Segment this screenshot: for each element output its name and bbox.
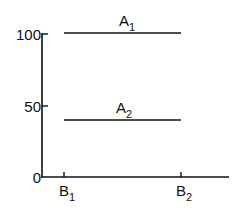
series-a2-label: A2 — [116, 99, 132, 120]
x-label-b1: B1 — [59, 182, 75, 203]
y-label-50: 50 — [24, 98, 41, 115]
series-a1-label: A1 — [119, 12, 135, 33]
diagram-canvas: 100 50 0 A1 A2 B1 B2 — [0, 0, 243, 211]
y-label-100: 100 — [16, 26, 41, 43]
y-label-0: 0 — [33, 169, 41, 186]
x-label-b2: B2 — [176, 182, 192, 203]
